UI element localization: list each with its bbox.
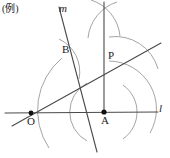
geometry-figure: (例) m l O A B P: [0, 0, 170, 158]
label-point-A: A: [101, 115, 109, 126]
line-m: [59, 7, 97, 152]
label-line-m: m: [59, 3, 67, 14]
label-line-l: l: [159, 103, 162, 114]
arc-right-upper: [109, 37, 158, 69]
arc-right-far: [109, 61, 156, 133]
label-point-B: B: [62, 44, 69, 55]
example-caption: (例): [2, 4, 19, 14]
line-l: [5, 112, 158, 113]
arc-center-A-large: [38, 58, 62, 148]
arc-top-right: [88, 2, 117, 38]
label-point-P: P: [108, 50, 114, 61]
construction-arcs-group: [38, 0, 158, 148]
construction-canvas: [0, 0, 170, 158]
construction-lines-group: [5, 2, 161, 152]
label-point-O: O: [27, 116, 35, 127]
